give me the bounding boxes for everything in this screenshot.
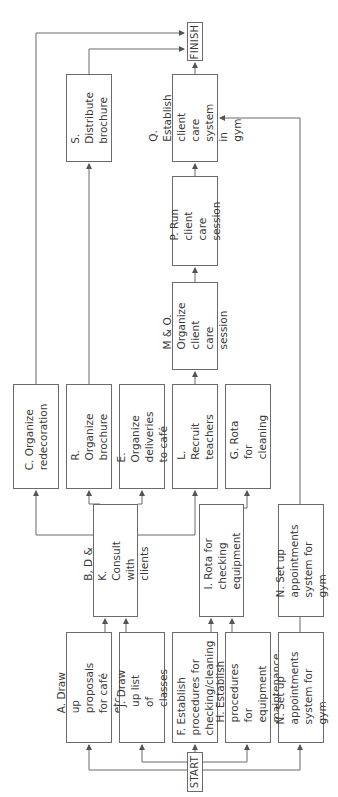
node-l-label: L. Recruit teachers xyxy=(174,414,216,460)
node-i: I. Rota for checking equipment xyxy=(199,504,244,617)
node-f: F. Establish procedures for checking/cle… xyxy=(172,632,218,743)
node-n2: N. Set up appointments system for gym xyxy=(278,504,324,617)
node-mo-label: M & O. Organize client care session xyxy=(160,302,230,349)
node-g-label: G. Rota for cleaning xyxy=(227,414,269,458)
node-e-label: E. Organize deliveries to café xyxy=(114,411,170,462)
node-mo: M & O. Organize client care session xyxy=(172,282,218,370)
node-f-label: F. Establish procedures for checking/cle… xyxy=(174,640,216,735)
node-n1: N. Set up appointments system for gym xyxy=(278,632,324,743)
node-h: H. Establish procedures for equipment ma… xyxy=(225,632,271,743)
node-g: G. Rota for cleaning xyxy=(225,384,271,489)
node-p-label: P. Run client care session xyxy=(167,202,223,241)
node-r: R. Organize brochure xyxy=(66,384,112,489)
node-i-label: I. Rota for checking equipment xyxy=(201,532,243,589)
node-j-label: J. Draw up list of classes xyxy=(114,669,170,707)
flow-diagram: START FINISH A. Draw up proposals for ca… xyxy=(0,0,338,797)
node-s-label: S. Distribute brochure xyxy=(68,92,110,144)
start-node: START xyxy=(187,752,203,792)
node-j: J. Draw up list of classes xyxy=(119,632,165,743)
node-r-label: R. Organize brochure xyxy=(68,413,110,460)
node-c-label: C. Organize redecoration xyxy=(22,403,50,470)
finish-node: FINISH xyxy=(187,22,203,61)
start-label: START xyxy=(188,756,202,788)
node-e: E. Organize deliveries to café xyxy=(119,384,165,489)
node-l: L. Recruit teachers xyxy=(172,384,218,489)
node-s: S. Distribute brochure xyxy=(66,74,112,162)
node-q-label: Q. Establish client care system in gym xyxy=(146,94,244,141)
node-c: C. Organize redecoration xyxy=(13,384,59,489)
node-bdk-label: B, D & K. Consult with clients xyxy=(81,541,151,581)
node-n1-label: N. Set up appointments system for gym xyxy=(273,651,329,724)
node-a: A. Draw up proposals for café etc. xyxy=(66,632,112,743)
node-p: P. Run client care session xyxy=(172,176,218,266)
node-n2-label: N. Set up appointments system for gym xyxy=(273,524,329,597)
node-q: Q. Establish client care system in gym xyxy=(172,74,218,162)
node-bdk: B, D & K. Consult with clients xyxy=(93,504,138,617)
finish-label: FINISH xyxy=(188,24,202,59)
